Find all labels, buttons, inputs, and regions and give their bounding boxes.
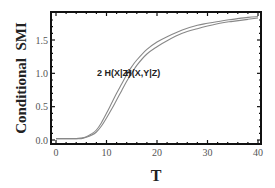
y-tick-labels: 0.00.51.01.5 <box>36 35 49 146</box>
x-tick-label: 40 <box>253 147 263 158</box>
x-tick-label: 0 <box>54 147 59 158</box>
x-tick-label: 20 <box>152 147 162 158</box>
x-axis-title: T <box>151 167 162 184</box>
x-tick-label: 30 <box>203 147 213 158</box>
chart: 010203040 0.00.51.01.5 2 H(X|Z)H(X,Y|Z) … <box>0 0 275 188</box>
y-axis-title: Conditional SMI <box>13 22 29 134</box>
curve-annotation: H(X,Y|Z) <box>125 68 160 78</box>
y-tick-label: 0.5 <box>36 101 49 112</box>
x-tick-labels: 010203040 <box>54 147 264 158</box>
x-tick-label: 10 <box>102 147 112 158</box>
series-line-2 <box>56 18 258 139</box>
y-tick-label: 0.0 <box>36 135 49 146</box>
y-tick-label: 1.5 <box>36 35 49 46</box>
y-tick-label: 1.0 <box>36 68 49 79</box>
curve-annotations: 2 H(X|Z)H(X,Y|Z) <box>97 68 160 78</box>
